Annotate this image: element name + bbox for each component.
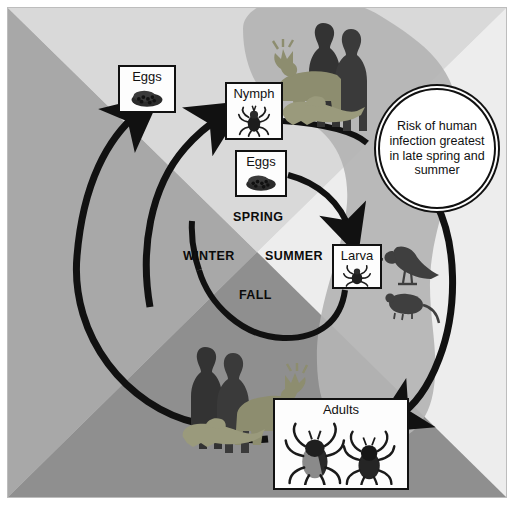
- two-adult-ticks-icon: [275, 417, 407, 488]
- stage-label-eggs-outer: Eggs: [132, 69, 162, 84]
- stage-card-eggs-outer[interactable]: Eggs: [118, 65, 176, 113]
- nymph-tick-icon: [227, 101, 281, 138]
- stage-label-nymph: Nymph: [233, 86, 274, 101]
- tick-eggs-icon: [120, 84, 174, 111]
- tick-lifecycle-figure: SPRING WINTER SUMMER FALL Eggs: [7, 7, 507, 498]
- figure-root: SPRING WINTER SUMMER FALL Eggs: [0, 0, 514, 505]
- stage-card-eggs-inner[interactable]: Eggs: [235, 150, 287, 197]
- tick-eggs-icon: [237, 169, 285, 195]
- stage-card-adults[interactable]: Adults: [273, 398, 409, 490]
- stage-label-larva: Larva: [341, 248, 374, 263]
- risk-callout-text: Risk of human infection greatest in late…: [380, 119, 494, 177]
- season-label-summer: SUMMER: [265, 249, 323, 263]
- stage-card-nymph[interactable]: Nymph: [225, 82, 283, 140]
- risk-callout-bubble[interactable]: Risk of human infection greatest in late…: [378, 88, 496, 209]
- stage-card-larva[interactable]: Larva: [332, 244, 382, 289]
- season-label-winter: WINTER: [183, 249, 235, 263]
- season-label-fall: FALL: [239, 288, 272, 302]
- stage-label-eggs-inner: Eggs: [246, 154, 276, 169]
- season-label-spring: SPRING: [233, 210, 283, 224]
- diagram-canvas: [7, 7, 507, 498]
- stage-label-adults: Adults: [323, 402, 359, 417]
- larva-tick-icon: [334, 263, 380, 287]
